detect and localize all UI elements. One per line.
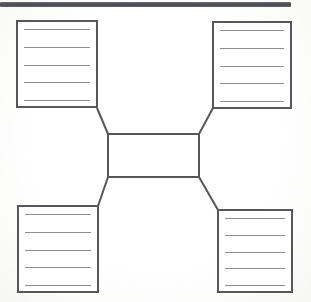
note-box-bottom-left[interactable] [17, 205, 99, 293]
write-line[interactable] [220, 101, 284, 102]
connector-bottom-right-to-center [199, 177, 218, 210]
write-line[interactable] [225, 285, 285, 286]
write-line[interactable] [225, 252, 285, 253]
write-line[interactable] [225, 268, 285, 269]
note-box-top-right-lines [214, 23, 290, 107]
write-line[interactable] [25, 232, 91, 233]
write-line[interactable] [225, 235, 285, 236]
connector-bottom-left-to-center [98, 177, 108, 206]
note-box-bottom-left-lines [19, 207, 97, 291]
center-topic-box[interactable] [107, 133, 200, 178]
write-line[interactable] [24, 100, 90, 101]
write-line[interactable] [220, 30, 284, 31]
note-box-top-left[interactable] [16, 20, 98, 108]
connector-top-left-to-center [97, 108, 108, 134]
worksheet-page [0, 0, 311, 302]
note-box-bottom-right[interactable] [217, 209, 293, 293]
write-line[interactable] [220, 83, 284, 84]
write-line[interactable] [24, 65, 90, 66]
write-line[interactable] [225, 218, 285, 219]
write-line[interactable] [220, 48, 284, 49]
write-line[interactable] [25, 285, 91, 286]
write-line[interactable] [25, 250, 91, 251]
write-line[interactable] [25, 214, 91, 215]
connector-top-right-to-center [199, 108, 213, 134]
write-line[interactable] [220, 66, 284, 67]
write-line[interactable] [24, 47, 90, 48]
note-box-bottom-right-lines [219, 211, 291, 291]
note-box-top-right[interactable] [212, 21, 292, 109]
note-box-top-left-lines [18, 22, 96, 106]
write-line[interactable] [24, 29, 90, 30]
write-line[interactable] [25, 267, 91, 268]
write-line[interactable] [24, 82, 90, 83]
